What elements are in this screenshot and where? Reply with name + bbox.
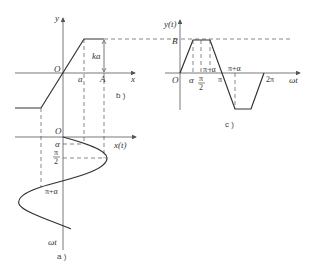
x-t-label: x(t) <box>113 140 127 150</box>
ka-label: ka <box>92 51 101 61</box>
omega-t-label-c: ωt <box>289 75 298 85</box>
origin-label-c: O <box>172 75 179 85</box>
alpha-label-c: α <box>189 75 194 85</box>
saturation-nonlinearity-diagram: y x O a A ka b ) O x(t) α π 2 π+α ωt a )… <box>0 0 310 273</box>
y-t-label: y(t) <box>163 19 177 29</box>
pi-minus-alpha-label: π−α <box>203 65 217 74</box>
amplitude-label: A <box>99 74 106 84</box>
pi-plus-alpha-label: π+α <box>45 187 59 196</box>
origin-label: O <box>54 64 61 74</box>
half-pi-numerator: π <box>54 148 58 157</box>
pi-label: π <box>218 75 222 84</box>
half-pi-numerator-c: π <box>199 74 203 83</box>
half-pi-denominator-c: 2 <box>199 83 203 92</box>
y-axis-label: y <box>54 13 59 23</box>
knee-label: a <box>78 74 83 84</box>
figure-a-input: O x(t) α π 2 π+α ωt a ) <box>15 126 136 261</box>
x-axis-label: x <box>130 74 135 84</box>
omega-t-label: ωt <box>48 237 57 247</box>
B-label: B <box>172 36 178 46</box>
caption-a: a ) <box>57 252 67 261</box>
figure-c-output: y(t) B O α π 2 π−α π π+α 2π ωt c ) <box>163 19 300 129</box>
origin-label-a: O <box>55 126 62 136</box>
caption-c: c ) <box>225 120 234 129</box>
pi-plus-alpha-label-c: π+α <box>228 64 242 73</box>
two-pi-label: 2π <box>266 75 274 84</box>
caption-b: b ) <box>116 91 126 100</box>
half-pi-denominator: 2 <box>54 157 58 166</box>
